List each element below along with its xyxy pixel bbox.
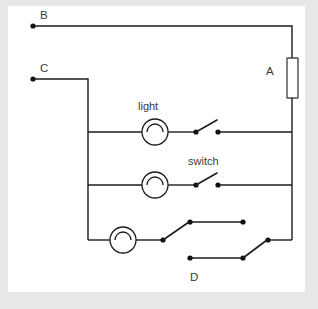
- label-node-b: B: [40, 9, 48, 21]
- switch-row-3-right-lever[interactable]: [243, 240, 267, 258]
- lamp-row-3: [110, 227, 136, 253]
- switch-row-1-terminal-right: [215, 129, 220, 134]
- switch-row-3-right[interactable]: [240, 219, 292, 260]
- switch-row-1-lever[interactable]: [196, 120, 217, 132]
- switch-row-2[interactable]: [193, 173, 220, 188]
- wire-c-left-bus: [33, 79, 88, 240]
- lamp-row-2: [142, 172, 168, 198]
- terminal-node-c: [30, 76, 35, 81]
- circuit-diagram-figure: B A C light: [0, 0, 318, 309]
- switch-row-3-right-traveller-upper: [240, 219, 245, 224]
- wire-b-top-rail: [33, 26, 292, 58]
- terminal-node-b: [30, 23, 35, 28]
- label-node-c: C: [40, 62, 48, 74]
- label-node-a: A: [266, 65, 274, 77]
- switch-row-2-terminal-right: [215, 182, 220, 187]
- switch-row-1[interactable]: [193, 120, 220, 135]
- lamp-row-1: [142, 119, 168, 145]
- label-light: light: [138, 100, 158, 112]
- switch-row-2-lever[interactable]: [196, 173, 217, 185]
- switch-row-3-left[interactable]: [160, 219, 192, 260]
- resistor-a: [287, 58, 298, 98]
- switch-row-3-left-lever[interactable]: [163, 222, 189, 240]
- circuit-schematic-svg: B A C light: [0, 0, 318, 309]
- label-node-d: D: [190, 271, 198, 283]
- switch-row-3-left-traveller-lower: [187, 255, 192, 260]
- label-switch: switch: [188, 155, 219, 167]
